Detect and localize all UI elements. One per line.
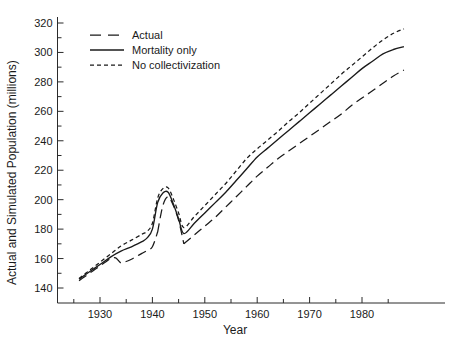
x-tick-label: 1970 <box>297 308 321 320</box>
y-tick-label: 300 <box>34 46 52 58</box>
series-layer <box>79 29 404 281</box>
y-tick-label: 260 <box>34 105 52 117</box>
series-line-no-collectivization <box>79 29 404 279</box>
y-tick-label: 320 <box>34 17 52 29</box>
legend-label: Mortality only <box>132 44 197 56</box>
y-tick-label: 180 <box>34 223 52 235</box>
population-simulation-chart: Actual and Simulated Population (million… <box>0 0 449 345</box>
x-tick-label: 1980 <box>350 308 374 320</box>
legend-label: Actual <box>132 29 163 41</box>
series-line-mortality-only <box>79 47 404 280</box>
y-tick-label: 240 <box>34 135 52 147</box>
legend-layer: ActualMortality onlyNo collectivization <box>90 29 220 71</box>
series-line-actual <box>184 70 404 244</box>
y-tick-label: 140 <box>34 282 52 294</box>
x-axis-title: Year <box>223 323 247 337</box>
axis-layer <box>58 17 446 303</box>
x-tick-label: 1940 <box>140 308 164 320</box>
y-tick-label: 280 <box>34 76 52 88</box>
legend-label: No collectivization <box>132 59 220 71</box>
x-tick-label: 1950 <box>193 308 217 320</box>
y-tick-label: 200 <box>34 194 52 206</box>
x-tick-label: 1960 <box>245 308 269 320</box>
x-tick-label: 1930 <box>88 308 112 320</box>
chart-canvas: Actual and Simulated Population (million… <box>0 0 449 345</box>
y-axis-title: Actual and Simulated Population (million… <box>5 60 19 285</box>
y-tick-label: 220 <box>34 164 52 176</box>
y-tick-label: 160 <box>34 253 52 265</box>
